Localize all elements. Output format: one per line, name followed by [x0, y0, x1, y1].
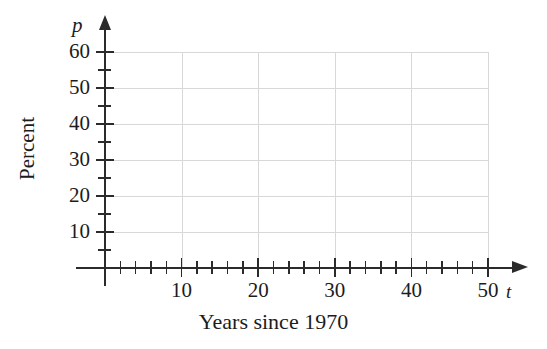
y-axis-tick-major — [96, 231, 114, 233]
x-axis-title: Years since 1970 — [0, 309, 547, 335]
gridline-horizontal — [105, 232, 488, 233]
plot-area — [105, 52, 488, 268]
y-axis-tick-major — [96, 195, 114, 197]
y-axis-tick-minor — [98, 249, 111, 250]
x-axis-tick-label: 20 — [228, 280, 288, 301]
gridline-vertical — [411, 52, 412, 268]
y-axis-tick-label: 10 — [30, 221, 90, 242]
y-axis-tick-minor — [98, 213, 111, 214]
x-axis-tick-minor — [365, 261, 367, 274]
gridline-horizontal — [105, 52, 488, 53]
gridline-horizontal — [105, 160, 488, 161]
gridline-vertical — [258, 52, 259, 268]
x-axis-tick-minor — [242, 261, 244, 274]
gridline-horizontal — [105, 196, 488, 197]
x-axis-tick-minor — [166, 261, 168, 274]
x-axis-tick-major — [334, 258, 336, 277]
graph-figure: 1020304050601020304050 p t Percent Years… — [0, 0, 547, 349]
x-axis-tick-minor — [319, 261, 321, 274]
x-axis-tick-minor — [441, 261, 443, 274]
x-axis-tick-minor — [135, 261, 137, 274]
x-axis-tick-minor — [380, 261, 382, 274]
y-axis-tick-label: 60 — [30, 41, 90, 62]
x-axis-tick-minor — [472, 261, 474, 274]
x-axis-tick-label: 30 — [305, 280, 365, 301]
x-axis-tick-major — [257, 258, 259, 277]
x-axis-line — [76, 267, 520, 269]
x-axis-tick-major — [411, 258, 413, 277]
x-axis-tick-minor — [349, 261, 351, 274]
x-axis-tick-minor — [395, 261, 397, 274]
y-axis-title: Percent — [15, 89, 40, 209]
y-axis-line — [104, 24, 106, 286]
gridline-vertical — [335, 52, 336, 268]
x-axis-variable-label: t — [506, 281, 511, 303]
gridline-vertical — [488, 52, 489, 268]
gridline-vertical — [182, 52, 183, 268]
y-axis-tick-major — [96, 123, 114, 125]
x-axis-tick-minor — [426, 261, 428, 274]
x-axis-tick-minor — [303, 261, 305, 274]
x-axis-tick-major — [487, 258, 489, 277]
y-axis-tick-major — [96, 87, 114, 89]
x-axis-tick-minor — [120, 261, 122, 274]
x-axis-tick-minor — [150, 261, 152, 274]
gridline-horizontal — [105, 88, 488, 89]
x-axis-tick-label: 40 — [381, 280, 441, 301]
x-axis-arrow-icon — [512, 261, 528, 273]
y-axis-tick-minor — [98, 177, 111, 178]
y-axis-variable-label: p — [72, 13, 83, 38]
x-axis-tick-minor — [273, 261, 275, 274]
y-axis-tick-minor — [98, 105, 111, 106]
x-axis-tick-major — [181, 258, 183, 277]
gridline-horizontal — [105, 124, 488, 125]
x-axis-tick-minor — [457, 261, 459, 274]
x-axis-tick-label: 10 — [152, 280, 212, 301]
x-axis-tick-minor — [288, 261, 290, 274]
y-axis-tick-major — [96, 51, 114, 53]
x-axis-tick-minor — [196, 261, 198, 274]
y-axis-tick-major — [96, 159, 114, 161]
y-axis-tick-minor — [98, 69, 111, 70]
x-axis-tick-minor — [211, 261, 213, 274]
y-axis-arrow-icon — [99, 15, 111, 30]
x-axis-tick-minor — [227, 261, 229, 274]
y-axis-tick-minor — [98, 141, 111, 142]
